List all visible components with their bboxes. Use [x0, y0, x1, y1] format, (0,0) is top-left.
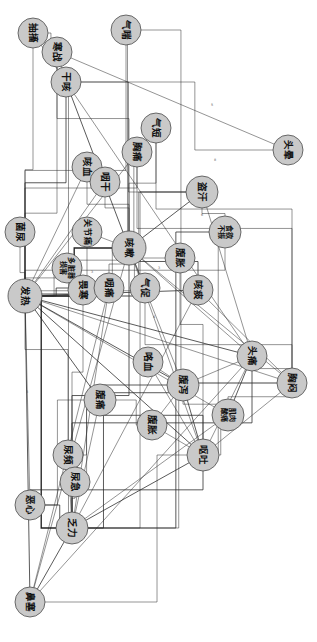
node-label: 腹 — [178, 374, 189, 385]
node-label: 嗽 — [124, 248, 135, 258]
network-node[interactable]: 咽干 — [90, 167, 120, 197]
network-node[interactable]: 腹痛 — [84, 384, 116, 416]
network-node[interactable]: 食欲不振 — [209, 216, 241, 248]
network-node[interactable]: 头痛 — [237, 341, 267, 371]
node-label: 寒 — [52, 41, 63, 52]
node-label: 战 — [52, 52, 63, 62]
network-node[interactable]: 畏寒 — [68, 275, 98, 305]
edge-weight-label: 5 — [211, 103, 213, 107]
node-label: 干 — [61, 72, 72, 82]
node-label: 腹 — [95, 389, 106, 400]
node-label: 痛 — [95, 399, 106, 410]
node-label: 振 — [217, 232, 226, 239]
network-edge — [25, 296, 228, 415]
network-node[interactable]: 咯血 — [133, 347, 163, 377]
node-label: 心 — [25, 505, 36, 515]
network-edge — [25, 296, 30, 602]
node-label: 咳 — [193, 280, 204, 290]
edge-weight-label: 4 — [153, 315, 155, 319]
node-label: 节 — [83, 228, 93, 236]
node-label: 胀 — [175, 258, 186, 268]
network-node[interactable]: 发热 — [8, 279, 42, 313]
network-node[interactable]: 咽痛 — [94, 273, 124, 303]
network-node[interactable]: 腹胀 — [165, 243, 195, 273]
network-node[interactable]: 尿频 — [53, 440, 83, 470]
network-node[interactable]: 恶心 — [15, 490, 45, 520]
node-label: 痛 — [247, 355, 258, 366]
network-graph-figure: 86333543 抽搐寒战干咳气喘头晕气短胸痛咳血咽干盗汗菌尿关节痛食欲不振多脏… — [0, 0, 317, 642]
node-label: 抽 — [28, 23, 39, 33]
network-edge — [72, 455, 203, 528]
edge-weight-label: 3 — [91, 270, 93, 274]
node-label: 咳 — [124, 238, 135, 248]
node-label: 胸 — [287, 373, 298, 383]
network-canvas: 86333543 抽搐寒战干咳气喘头晕气短胸痛咳血咽干盗汗菌尿关节痛食欲不振多脏… — [0, 0, 317, 642]
node-label: 害 — [59, 268, 68, 275]
network-edge — [57, 52, 288, 150]
node-label: 咯 — [143, 352, 154, 362]
network-node[interactable]: 头晕 — [273, 135, 303, 165]
network-node[interactable]: 寒战 — [42, 37, 72, 67]
node-label: 不 — [217, 225, 225, 232]
node-label: 畏 — [78, 280, 89, 290]
network-node[interactable]: 腹泻 — [167, 369, 199, 401]
node-label: 短 — [151, 128, 162, 138]
network-node[interactable]: 乏力 — [56, 512, 88, 544]
node-label: 痛 — [83, 236, 93, 245]
network-node[interactable]: 气喘 — [111, 15, 141, 45]
network-edge — [25, 296, 100, 400]
network-edge — [72, 356, 252, 528]
edge-weight-label: 8 — [214, 158, 216, 162]
node-label: 鼻 — [25, 592, 36, 602]
network-node[interactable]: 关节痛 — [72, 217, 102, 247]
node-label: 发 — [20, 285, 31, 296]
node-label: 肌 — [228, 407, 237, 415]
node-label: 多 — [67, 257, 76, 264]
network-node[interactable]: 干咳 — [51, 67, 81, 97]
node-label: 干 — [100, 182, 111, 192]
network-node[interactable]: 腹胀 — [137, 410, 167, 440]
network-node[interactable]: 气促 — [130, 273, 160, 303]
network-edge — [25, 33, 33, 296]
node-label: 腹 — [174, 247, 185, 258]
edge-weight-label: 3 — [26, 390, 28, 394]
node-label: 呕 — [198, 445, 209, 455]
network-node[interactable]: 呕吐 — [187, 439, 219, 471]
node-label: 尿 — [15, 232, 26, 242]
node-label: 气 — [140, 277, 151, 288]
node-label: 气 — [151, 117, 162, 128]
node-label: 血 — [82, 167, 93, 177]
node-label: 晕 — [283, 150, 294, 160]
node-label: 胸 — [132, 142, 143, 152]
network-edge — [66, 82, 288, 150]
network-node[interactable]: 气短 — [141, 113, 171, 143]
node-label: 促 — [140, 287, 151, 298]
node-label: 急 — [70, 482, 81, 492]
node-label: 关 — [83, 219, 93, 227]
node-label: 痛 — [220, 415, 229, 422]
node-label: 气 — [121, 19, 132, 30]
node-label: 咳 — [61, 82, 72, 92]
network-node[interactable]: 肌肉酸痛 — [212, 399, 244, 431]
network-node[interactable]: 咳痰 — [183, 275, 213, 305]
node-label: 咳 — [82, 157, 93, 167]
node-label: 损 — [59, 261, 68, 268]
network-node[interactable]: 胸闷 — [277, 368, 307, 398]
network-node[interactable]: 菌尿 — [5, 217, 35, 247]
node-label: 泻 — [178, 385, 189, 395]
node-label: 喘 — [121, 30, 132, 40]
network-edge — [25, 296, 68, 455]
node-label: 搐 — [28, 33, 39, 43]
network-node[interactable]: 咳嗽 — [112, 231, 146, 265]
node-label: 头 — [247, 346, 258, 356]
node-label: 频 — [63, 455, 74, 465]
edge-weight-label: 3 — [158, 266, 160, 270]
network-node[interactable]: 抽搐 — [18, 18, 48, 48]
node-label: 力 — [67, 528, 78, 538]
network-node[interactable]: 胸痛 — [122, 137, 152, 167]
network-node[interactable]: 盗汗 — [186, 176, 218, 208]
node-label: 尿 — [70, 472, 81, 482]
node-label: 痰 — [193, 290, 204, 300]
network-node[interactable]: 尿急 — [60, 467, 90, 497]
network-node[interactable]: 鼻塞 — [15, 587, 45, 617]
